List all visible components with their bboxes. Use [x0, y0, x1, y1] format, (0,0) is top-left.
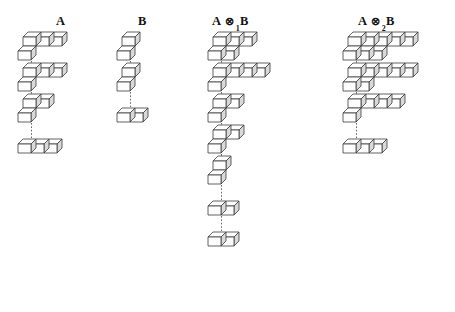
cube-front-face	[23, 37, 36, 46]
cube-front-face	[122, 37, 135, 46]
cube-front-face	[208, 51, 221, 60]
cube-front-face	[343, 144, 356, 153]
block-row	[208, 32, 257, 60]
cube-front-face	[18, 113, 31, 122]
cube-front-face	[117, 51, 130, 60]
cube-front-face	[343, 82, 356, 91]
block-group-col-a	[18, 32, 67, 153]
cube-front-face	[213, 99, 226, 108]
cube-front-face	[208, 237, 221, 246]
diagram-canvas: A B A ⊗1B A ⊗2B	[0, 0, 455, 312]
cube-front-face	[348, 68, 361, 77]
block-row	[343, 32, 418, 60]
cube-front-face	[348, 99, 361, 108]
cube-front-face	[18, 82, 31, 91]
block-group-col-a-tensor1-b	[208, 32, 270, 246]
cube-front-face	[208, 175, 221, 184]
block-row	[208, 125, 244, 153]
block-row	[208, 201, 239, 215]
block-group-col-b	[117, 32, 148, 122]
cube-front-face	[213, 130, 226, 139]
block-row	[208, 94, 244, 122]
block-row	[343, 94, 405, 122]
block-row	[117, 108, 148, 122]
block-row	[18, 32, 67, 60]
cube-front-face	[208, 82, 221, 91]
cube-front-face	[343, 113, 356, 122]
block-row	[117, 32, 140, 60]
cube-front-face	[208, 144, 221, 153]
block-row	[18, 139, 62, 153]
block-group-col-a-tensor2-b	[343, 32, 418, 153]
block-row	[208, 156, 231, 184]
cube-front-face	[348, 37, 361, 46]
cube-front-face	[23, 99, 36, 108]
block-row	[208, 63, 270, 91]
block-row	[343, 63, 418, 91]
cube-front-face	[343, 51, 356, 60]
cube-front-face	[208, 206, 221, 215]
cube-front-face	[208, 113, 221, 122]
cube-front-face	[117, 113, 130, 122]
cube-front-face	[213, 161, 226, 170]
cube-front-face	[18, 51, 31, 60]
cube-front-face	[23, 68, 36, 77]
block-row	[343, 139, 387, 153]
block-diagram-svg	[0, 0, 455, 312]
block-row	[18, 63, 67, 91]
block-row	[18, 94, 54, 122]
cube-front-face	[122, 68, 135, 77]
cube-front-face	[213, 68, 226, 77]
block-row	[117, 63, 140, 91]
block-row	[208, 232, 239, 246]
cube-front-face	[18, 144, 31, 153]
cube-front-face	[213, 37, 226, 46]
cube-front-face	[117, 82, 130, 91]
